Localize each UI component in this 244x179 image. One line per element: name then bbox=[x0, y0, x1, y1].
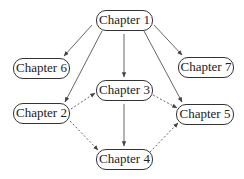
node-chapter-7: Chapter 7 bbox=[178, 57, 234, 78]
node-chapter-6: Chapter 6 bbox=[13, 58, 70, 79]
node-chapter-3: Chapter 3 bbox=[96, 80, 153, 101]
node-chapter-4: Chapter 4 bbox=[96, 149, 153, 170]
edge-ch3-ch5 bbox=[153, 95, 177, 108]
edge-ch1-ch7 bbox=[154, 25, 182, 55]
node-chapter-2: Chapter 2 bbox=[13, 103, 70, 124]
node-chapter-1: Chapter 1 bbox=[96, 10, 153, 31]
chapter-dependency-diagram: Chapter 1 Chapter 6 Chapter 7 Chapter 3 … bbox=[0, 0, 244, 179]
edge-ch2-ch4 bbox=[70, 121, 98, 150]
edge-ch1-ch6 bbox=[64, 25, 92, 56]
edge-ch4-ch5 bbox=[150, 123, 178, 152]
edge-ch2-ch3 bbox=[71, 93, 95, 109]
node-chapter-5: Chapter 5 bbox=[176, 104, 234, 125]
